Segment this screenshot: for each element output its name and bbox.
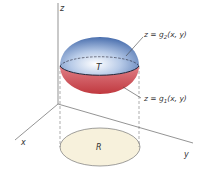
- region-label: R: [96, 143, 102, 152]
- diagram-canvas: z x y T R z = g2(x, y) z = g1(x, y): [0, 0, 203, 176]
- x-axis-label: x: [20, 138, 26, 147]
- y-axis-label: y: [183, 150, 189, 159]
- lower-leader: [123, 87, 141, 98]
- lower-surface-label: z = g1(x, y): [143, 94, 187, 104]
- x-axis: [15, 104, 58, 140]
- z-axis-label: z: [59, 4, 65, 13]
- upper-surface-label: z = g2(x, y): [143, 30, 187, 40]
